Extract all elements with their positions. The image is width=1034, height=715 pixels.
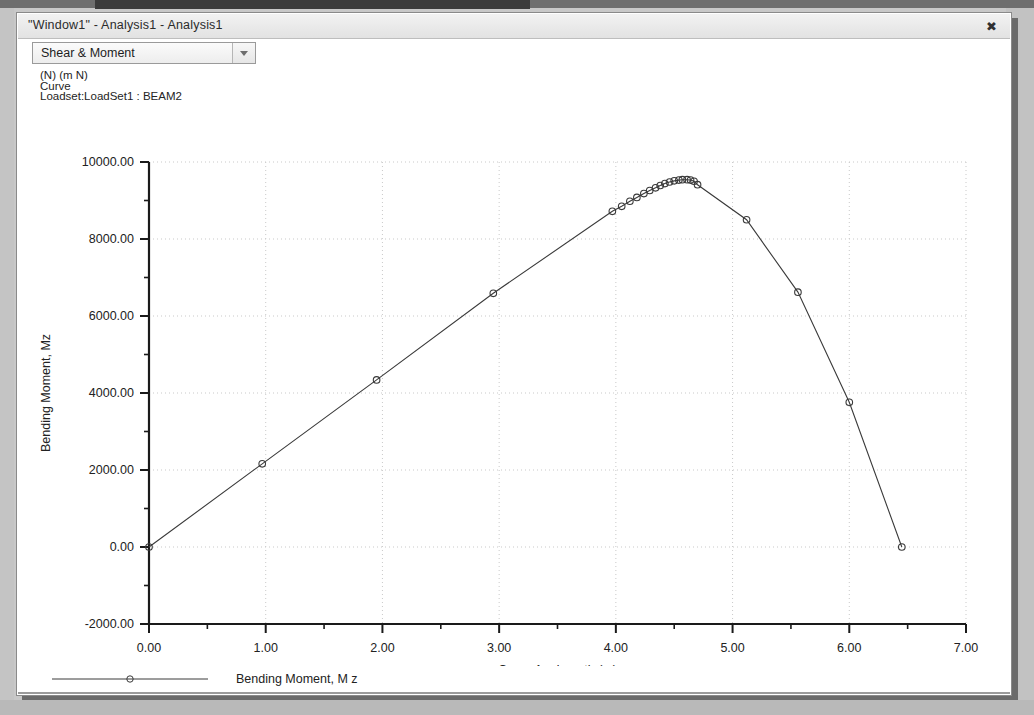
close-icon[interactable]: ✖ xyxy=(980,17,1002,35)
x-tick-label: 2.00 xyxy=(370,641,394,655)
x-tick-label: 1.00 xyxy=(254,641,278,655)
legend-label: Bending Moment, M z xyxy=(236,672,358,686)
toolbar: Shear & Moment xyxy=(18,40,1010,68)
y-tick-label: 4000.00 xyxy=(89,386,134,400)
result-type-dropdown[interactable]: Shear & Moment xyxy=(32,42,256,64)
desktop-left-band xyxy=(0,8,14,708)
x-tick-label: 4.00 xyxy=(604,641,628,655)
x-tick-label: 7.00 xyxy=(954,641,978,655)
desktop-bottom-band xyxy=(0,700,1034,715)
window-bottom-edge xyxy=(18,692,1010,694)
y-tick-label: 10000.00 xyxy=(82,155,134,169)
x-tick-label: 5.00 xyxy=(720,641,744,655)
caption-units: (N) (m N) xyxy=(40,70,182,81)
plot-caption: (N) (m N) Curve Loadset:LoadSet1 : BEAM2 xyxy=(40,70,182,102)
screen: "Window1" - Analysis1 - Analysis1 ✖ Shea… xyxy=(0,0,1034,715)
window-titlebar[interactable]: "Window1" - Analysis1 - Analysis1 ✖ xyxy=(18,14,1010,39)
series-line xyxy=(149,180,902,547)
caption-loadset: Loadset:LoadSet1 : BEAM2 xyxy=(40,91,182,102)
legend-marker-icon xyxy=(50,672,210,686)
window-title: "Window1" - Analysis1 - Analysis1 xyxy=(28,18,223,32)
analysis-window: "Window1" - Analysis1 - Analysis1 ✖ Shea… xyxy=(16,12,1012,696)
bending-moment-chart[interactable]: -2000.000.002000.004000.006000.008000.00… xyxy=(18,106,1012,666)
chevron-down-glyph xyxy=(240,51,248,56)
desktop-top-band-dark xyxy=(95,0,530,9)
window-inner: "Window1" - Analysis1 - Analysis1 ✖ Shea… xyxy=(18,14,1010,694)
y-axis-label: Bending Moment, Mz xyxy=(39,334,53,452)
chart-area: -2000.000.002000.004000.006000.008000.00… xyxy=(18,106,1012,666)
chevron-down-icon[interactable] xyxy=(232,43,255,63)
x-tick-label: 6.00 xyxy=(837,641,861,655)
x-tick-label: 3.00 xyxy=(487,641,511,655)
legend-item: Bending Moment, M z xyxy=(40,666,990,692)
y-tick-label: 0.00 xyxy=(110,540,134,554)
result-type-value: Shear & Moment xyxy=(33,46,232,60)
x-tick-label: 0.00 xyxy=(137,641,161,655)
y-tick-label: 8000.00 xyxy=(89,232,134,246)
y-tick-label: 6000.00 xyxy=(89,309,134,323)
y-tick-label: 2000.00 xyxy=(89,463,134,477)
chart-legend: Bending Moment, M z xyxy=(40,666,990,692)
y-tick-label: -2000.00 xyxy=(85,617,134,631)
